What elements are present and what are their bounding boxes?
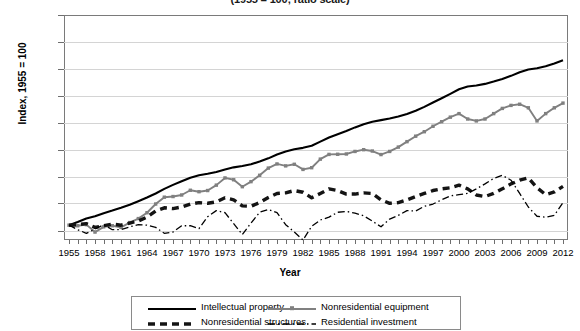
series-marker <box>440 120 443 123</box>
series-marker <box>189 189 192 192</box>
series-marker <box>353 150 356 153</box>
x-tick-mark <box>216 240 217 244</box>
series-marker <box>319 157 322 160</box>
x-tick-mark <box>173 240 174 244</box>
x-tick-mark <box>95 240 96 244</box>
x-tick-mark <box>104 240 105 244</box>
series-marker <box>154 202 157 205</box>
series-marker <box>223 176 226 179</box>
series-marker <box>466 117 469 120</box>
x-tick-mark <box>286 240 287 244</box>
x-tick-mark <box>511 240 512 244</box>
x-tick-mark <box>433 240 434 244</box>
series-marker <box>180 193 183 196</box>
series-marker <box>544 112 547 115</box>
legend-item: Nonresidential structures <box>146 316 266 328</box>
x-tick-mark <box>242 240 243 244</box>
series-marker <box>327 153 330 156</box>
y-tick-mark <box>58 96 64 97</box>
series-marker <box>362 148 365 151</box>
x-tick-mark <box>69 240 70 244</box>
series-marker <box>405 140 408 143</box>
y-tick-mark <box>58 69 64 70</box>
series-line-2 <box>69 178 563 227</box>
x-tick-mark <box>251 240 252 244</box>
x-tick-mark <box>277 240 278 244</box>
series-marker <box>284 164 287 167</box>
x-tick-mark <box>312 240 313 244</box>
y-tick-mark <box>58 123 64 124</box>
series-marker <box>76 224 79 227</box>
x-tick-mark <box>546 240 547 244</box>
series-marker <box>171 195 174 198</box>
x-tick-mark <box>138 240 139 244</box>
legend-key-icon <box>146 301 198 313</box>
x-tick-mark <box>468 240 469 244</box>
x-tick-mark <box>381 240 382 244</box>
legend-key-icon <box>146 316 198 328</box>
series-marker <box>509 104 512 107</box>
series-marker <box>371 149 374 152</box>
chart-title: (1955 = 100; ratio scale) <box>0 0 580 5</box>
legend-item: Intellectual property <box>146 301 266 313</box>
x-tick-mark <box>303 240 304 244</box>
x-tick-mark <box>459 240 460 244</box>
series-marker <box>206 189 209 192</box>
series-marker <box>414 134 417 137</box>
series-marker <box>163 195 166 198</box>
series-marker <box>258 174 261 177</box>
series-marker <box>232 178 235 181</box>
x-tick-mark <box>390 240 391 244</box>
x-tick-mark <box>476 240 477 244</box>
x-tick-mark <box>190 240 191 244</box>
y-tick-mark <box>58 203 64 204</box>
x-tick-mark <box>424 240 425 244</box>
x-tick-mark <box>528 240 529 244</box>
y-tick-mark <box>58 231 64 232</box>
x-tick-mark <box>355 240 356 244</box>
x-tick-mark <box>407 240 408 244</box>
x-tick-mark <box>156 240 157 244</box>
plot-area <box>64 15 568 240</box>
legend-label: Nonresidential equipment <box>321 301 429 312</box>
series-line-1 <box>69 103 563 232</box>
x-tick-mark <box>494 240 495 244</box>
series-line-3 <box>69 175 563 240</box>
series-marker <box>457 112 460 115</box>
legend-label: Residential investment <box>321 316 417 327</box>
x-tick-mark <box>86 240 87 244</box>
series-marker <box>553 106 556 109</box>
series-marker <box>275 162 278 165</box>
x-tick-mark <box>554 240 555 244</box>
series-layer <box>64 15 568 240</box>
x-tick-mark <box>199 240 200 244</box>
series-marker <box>501 107 504 110</box>
legend-item: Nonresidential equipment <box>266 301 426 313</box>
x-tick-mark <box>485 240 486 244</box>
x-tick-mark <box>329 240 330 244</box>
x-tick-mark <box>268 240 269 244</box>
series-marker <box>111 224 114 227</box>
series-marker <box>293 163 296 166</box>
series-marker <box>483 117 486 120</box>
series-line-0 <box>69 60 563 225</box>
x-tick-mark <box>338 240 339 244</box>
x-tick-mark <box>364 240 365 244</box>
x-tick-mark <box>398 240 399 244</box>
series-marker <box>535 119 538 122</box>
x-tick-mark <box>442 240 443 244</box>
y-tick-mark <box>58 15 64 16</box>
series-marker <box>336 153 339 156</box>
series-marker <box>267 166 270 169</box>
series-marker <box>379 153 382 156</box>
chart-legend: Intellectual propertyNonresidential equi… <box>131 296 461 330</box>
series-marker <box>518 103 521 106</box>
y-tick-mark <box>58 177 64 178</box>
series-marker <box>492 112 495 115</box>
x-tick-mark <box>372 240 373 244</box>
x-tick-mark <box>320 240 321 244</box>
x-tick-mark <box>416 240 417 244</box>
x-tick-mark <box>225 240 226 244</box>
x-tick-mark <box>78 240 79 244</box>
x-tick-mark <box>112 240 113 244</box>
